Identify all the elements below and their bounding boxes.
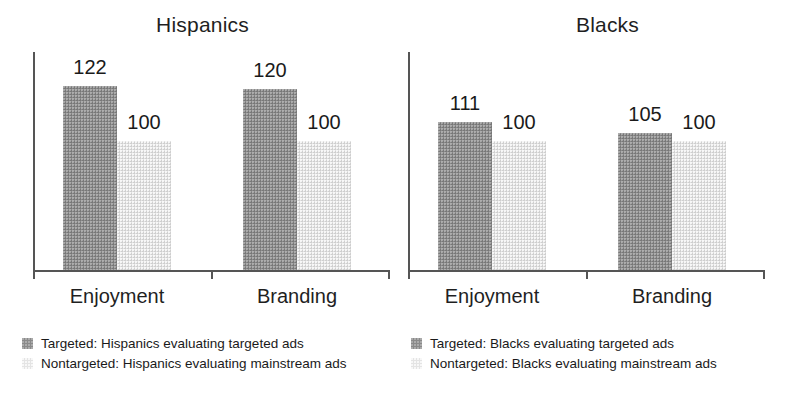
bar-branding-targeted (243, 89, 297, 270)
x-axis-tick-mid (586, 270, 588, 279)
legend-swatch-targeted-icon (411, 338, 422, 349)
category-label-enjoyment: Enjoyment (432, 285, 552, 308)
x-axis-tick-mid (211, 270, 213, 279)
y-axis-line (408, 52, 410, 272)
bar-value-label: 122 (60, 56, 120, 79)
bar-value-label: 111 (435, 92, 495, 115)
bar-value-label: 105 (615, 103, 675, 126)
bar-value-label: 100 (669, 111, 729, 134)
legend-label: Targeted: Blacks evaluating targeted ads (430, 336, 674, 351)
bar-value-label: 100 (294, 111, 354, 134)
bar-enjoyment-targeted (438, 122, 492, 270)
bar-enjoyment-nontargeted (117, 141, 171, 270)
chart-panel-hispanics: Hispanics 122 100 120 100 Enjoyment Bran… (0, 0, 405, 411)
legend-item: Targeted: Blacks evaluating targeted ads (411, 336, 810, 351)
bar-enjoyment-nontargeted (492, 141, 546, 270)
category-label-enjoyment: Enjoyment (57, 285, 177, 308)
y-axis-line (33, 52, 35, 272)
bar-value-label: 120 (240, 59, 300, 82)
plot-area-hispanics: 122 100 120 100 Enjoyment Branding (0, 0, 405, 290)
legend-item: Nontargeted: Hispanics evaluating mainst… (22, 356, 427, 371)
legend-blacks: Targeted: Blacks evaluating targeted ads… (411, 336, 810, 376)
legend-item: Targeted: Hispanics evaluating targeted … (22, 336, 427, 351)
bar-branding-targeted (618, 133, 672, 270)
legend-label: Nontargeted: Hispanics evaluating mainst… (41, 356, 346, 371)
legend-hispanics: Targeted: Hispanics evaluating targeted … (22, 336, 427, 376)
legend-swatch-nontargeted-icon (411, 358, 422, 369)
category-label-branding: Branding (237, 285, 357, 308)
chart-figure: Hispanics 122 100 120 100 Enjoyment Bran… (0, 0, 810, 411)
x-axis-tick-end (763, 270, 765, 279)
bar-value-label: 100 (489, 111, 549, 134)
chart-panel-blacks: Blacks 111 100 105 100 Enjoyment Brandin… (405, 0, 810, 411)
bar-value-label: 100 (114, 111, 174, 134)
bar-branding-nontargeted (297, 141, 351, 270)
bar-enjoyment-targeted (63, 86, 117, 270)
x-axis-tick-end (388, 270, 390, 279)
bar-branding-nontargeted (672, 141, 726, 270)
legend-item: Nontargeted: Blacks evaluating mainstrea… (411, 356, 810, 371)
x-axis-tick-start (408, 270, 410, 279)
legend-swatch-nontargeted-icon (22, 358, 33, 369)
category-label-branding: Branding (612, 285, 732, 308)
x-axis-tick-start (33, 270, 35, 279)
legend-label: Nontargeted: Blacks evaluating mainstrea… (430, 356, 717, 371)
legend-label: Targeted: Hispanics evaluating targeted … (41, 336, 304, 351)
plot-area-blacks: 111 100 105 100 Enjoyment Branding (405, 0, 810, 290)
legend-swatch-targeted-icon (22, 338, 33, 349)
